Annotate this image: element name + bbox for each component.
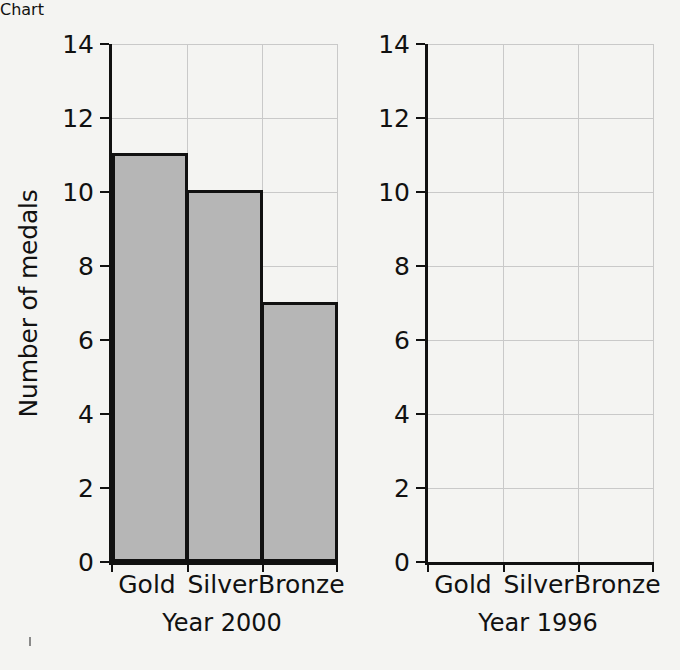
y-tick-4: 4 [416, 413, 425, 415]
gridline-x-1 [503, 44, 504, 562]
scan-artifact-mark [29, 637, 31, 646]
y-tick-0: 0 [416, 561, 425, 563]
gridline-y-8 [428, 266, 654, 267]
y-tick-label-0: 0 [78, 548, 94, 577]
y-tick-6: 6 [416, 339, 425, 341]
panel-caption-year-1996: Year 1996 [425, 609, 651, 637]
grid-frame-top [428, 44, 654, 45]
y-tick-label-8: 8 [394, 252, 410, 281]
y-tick-label-12: 12 [378, 104, 410, 133]
gridline-y-4 [428, 414, 654, 415]
y-tick-12: 12 [416, 117, 425, 119]
gridline-y-2 [428, 488, 654, 489]
y-tick-6: 6 [100, 339, 109, 341]
y-tick-8: 8 [416, 265, 425, 267]
gridline-x-2 [578, 44, 579, 562]
y-tick-label-4: 4 [394, 400, 410, 429]
x-label-gold: Gold [425, 570, 501, 599]
y-tick-label-8: 8 [78, 252, 94, 281]
y-tick-label-4: 4 [78, 400, 94, 429]
y-tick-2: 2 [416, 487, 425, 489]
y-tick-label-2: 2 [394, 474, 410, 503]
y-tick-0: 0 [100, 561, 109, 563]
plot-area-year-2000: 14 12 10 8 6 4 2 0 [109, 44, 338, 565]
y-tick-label-14: 14 [378, 30, 410, 59]
bar-silver [186, 190, 263, 562]
grid-frame-right [653, 44, 654, 562]
gridline-y-12 [112, 118, 338, 119]
y-tick-label-10: 10 [378, 178, 410, 207]
bar-chart-figure: Number of medals 14 12 10 [0, 0, 680, 670]
y-tick-2: 2 [100, 487, 109, 489]
x-label-silver: Silver [500, 570, 577, 599]
panel-year-1996: 14 12 10 8 6 4 2 0 [340, 0, 680, 670]
panel-year-2000: 14 12 10 8 6 4 2 0 [0, 0, 340, 670]
bar-bronze [261, 302, 338, 563]
y-tick-10: 10 [416, 191, 425, 193]
y-tick-14: 14 [416, 43, 425, 45]
y-tick-label-2: 2 [78, 474, 94, 503]
x-label-bronze: Bronze [258, 570, 335, 599]
y-tick-label-0: 0 [394, 548, 410, 577]
y-tick-label-14: 14 [62, 30, 94, 59]
y-tick-label-12: 12 [62, 104, 94, 133]
panel-caption-year-2000: Year 2000 [109, 609, 335, 637]
plot-area-year-1996: 14 12 10 8 6 4 2 0 [425, 44, 654, 565]
x-label-gold: Gold [109, 570, 185, 599]
y-tick-12: 12 [100, 117, 109, 119]
y-tick-8: 8 [100, 265, 109, 267]
y-tick-label-10: 10 [62, 178, 94, 207]
y-tick-4: 4 [100, 413, 109, 415]
gridline-y-6 [428, 340, 654, 341]
gridline-y-10 [428, 192, 654, 193]
y-tick-label-6: 6 [394, 326, 410, 355]
x-label-bronze: Bronze [574, 570, 651, 599]
y-tick-label-6: 6 [78, 326, 94, 355]
grid-frame-top [112, 44, 338, 45]
x-label-silver: Silver [184, 570, 261, 599]
gridline-y-12 [428, 118, 654, 119]
bar-gold [112, 153, 188, 562]
y-tick-10: 10 [100, 191, 109, 193]
y-tick-14: 14 [100, 43, 109, 45]
